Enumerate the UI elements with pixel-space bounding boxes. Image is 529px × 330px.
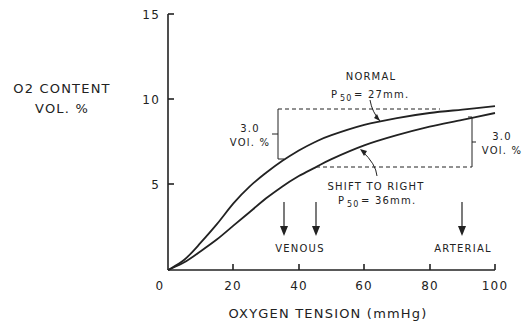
y-tick-15: 15 <box>142 8 160 22</box>
p-symbol: P <box>331 89 338 100</box>
arterial-arrow <box>458 202 466 236</box>
x-tick-40: 40 <box>290 279 308 293</box>
y-axis-title-line1: O2 CONTENT <box>13 81 111 96</box>
p-subscript: 50 <box>340 94 353 103</box>
y-tick-5: 5 <box>151 178 160 192</box>
x-tick-20: 20 <box>224 279 242 293</box>
x-tick-60: 60 <box>355 279 373 293</box>
right-bracket-value: 3.0 <box>492 131 512 142</box>
shift-label: SHIFT TO RIGHT <box>328 181 425 192</box>
shift-p50-label: P 50 = 36mm. <box>338 195 416 209</box>
y-tick-10: 10 <box>142 93 160 107</box>
normal-label: NORMAL <box>346 71 397 82</box>
oxygen-dissociation-chart: 15 10 5 0 20 40 60 80 100 OXYGEN TENSION… <box>0 0 529 330</box>
right-difference-bracket <box>316 117 476 167</box>
y-axis <box>168 14 174 270</box>
x-tick-0: 0 <box>156 279 165 293</box>
shift-p50-value: = 36mm. <box>361 195 416 206</box>
venous-arrows <box>280 202 320 236</box>
left-bracket-unit: VOl. % <box>230 137 270 148</box>
normal-pointer-arrowhead <box>374 114 380 121</box>
x-axis-title: OXYGEN TENSION (mmHg) <box>228 306 427 321</box>
normal-p50-value: = 27mm. <box>354 89 409 100</box>
left-bracket-value: 3.0 <box>240 123 260 134</box>
y-axis-title-line2: VOL. % <box>35 101 89 116</box>
arterial-label: ARTERIAL <box>434 243 491 254</box>
venous-label: VENOUS <box>275 243 324 254</box>
x-tick-80: 80 <box>421 279 439 293</box>
right-bracket-unit: VOl. % <box>482 145 522 156</box>
p-symbol: P <box>338 195 345 206</box>
p-subscript: 50 <box>347 200 360 209</box>
x-axis <box>168 264 495 270</box>
x-tick-100: 100 <box>482 279 509 293</box>
